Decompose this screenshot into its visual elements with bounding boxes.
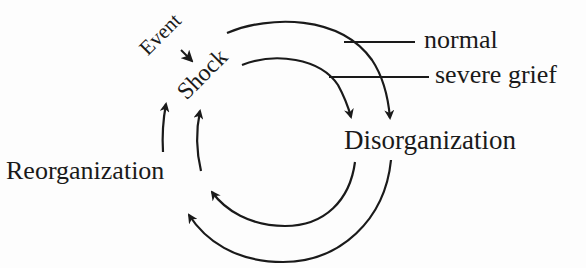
node-disorganization: Disorganization	[344, 127, 516, 154]
arc-shock-to-disorganization-severe-grief	[242, 58, 351, 117]
arc-reorganization-to-shock-normal	[163, 104, 166, 152]
arc-disorganization-to-reorganization-normal	[189, 160, 391, 262]
legend-label-severe-grief: severe grief	[435, 62, 557, 88]
legend-label-normal: normal	[424, 27, 498, 53]
arc-shock-to-disorganization-normal	[227, 22, 390, 118]
arc-disorganization-to-reorganization-severe-grief	[212, 162, 355, 226]
node-reorganization: Reorganization	[6, 158, 164, 184]
grief-cycle-diagram: Event Shock normal severe grief Disorgan…	[0, 0, 586, 268]
arc-reorganization-to-shock-severe-grief	[197, 111, 201, 171]
event-to-shock-arrow	[181, 50, 192, 61]
